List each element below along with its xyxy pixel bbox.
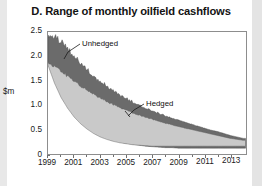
y-tick-label: 2.0 — [12, 52, 42, 60]
y-tick-label: 1.0 — [12, 101, 42, 109]
plot-svg — [48, 32, 246, 154]
y-tick-label: 1.5 — [12, 77, 42, 85]
plot-area — [47, 31, 247, 155]
x-tick-label: 2013 — [216, 156, 246, 165]
chart-title: D. Range of monthly oilfield cashflows — [10, 5, 252, 18]
x-tick-mark-minor — [60, 155, 61, 157]
x-axis-tick-labels: 19992001200320052007200920112013 — [0, 158, 262, 174]
chart-figure: D. Range of monthly oilfield cashflows $… — [0, 0, 262, 186]
x-tick-mark-minor — [113, 155, 114, 157]
x-tick-mark-minor — [139, 155, 140, 157]
series-label-hedged: Hedged — [146, 100, 173, 108]
y-tick-label: 0.5 — [12, 126, 42, 134]
x-tick-mark-minor — [165, 155, 166, 157]
x-tick-mark-minor — [86, 155, 87, 157]
y-tick-label: 2.5 — [12, 27, 42, 35]
series-label-unhedged: Unhedged — [82, 40, 118, 48]
